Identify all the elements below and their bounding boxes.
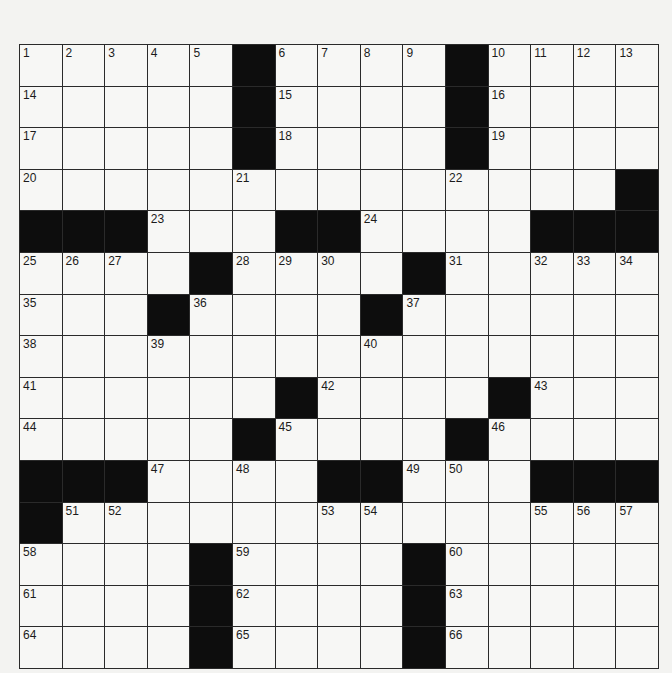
crossword-cell[interactable] [276, 544, 318, 585]
crossword-cell[interactable] [531, 419, 573, 460]
crossword-cell[interactable] [276, 295, 318, 336]
crossword-cell[interactable] [318, 627, 360, 668]
crossword-cell[interactable]: 44 [20, 419, 62, 460]
crossword-cell[interactable] [63, 336, 105, 377]
crossword-cell[interactable] [489, 461, 531, 502]
crossword-cell[interactable] [190, 128, 232, 169]
crossword-cell[interactable] [148, 586, 190, 627]
crossword-cell[interactable] [574, 87, 616, 128]
crossword-cell[interactable]: 45 [276, 419, 318, 460]
crossword-cell[interactable] [403, 87, 445, 128]
crossword-cell[interactable] [105, 627, 147, 668]
crossword-cell[interactable] [63, 295, 105, 336]
crossword-cell[interactable] [616, 295, 658, 336]
crossword-cell[interactable] [574, 627, 616, 668]
crossword-cell[interactable] [148, 170, 190, 211]
crossword-cell[interactable] [276, 170, 318, 211]
crossword-cell[interactable] [531, 544, 573, 585]
crossword-cell[interactable] [616, 586, 658, 627]
crossword-cell[interactable]: 5 [190, 45, 232, 86]
crossword-cell[interactable]: 28 [233, 253, 275, 294]
crossword-cell[interactable]: 20 [20, 170, 62, 211]
crossword-cell[interactable]: 13 [616, 45, 658, 86]
crossword-cell[interactable] [190, 336, 232, 377]
crossword-cell[interactable]: 27 [105, 253, 147, 294]
crossword-cell[interactable] [489, 503, 531, 544]
crossword-cell[interactable] [148, 128, 190, 169]
crossword-cell[interactable]: 30 [318, 253, 360, 294]
crossword-cell[interactable]: 17 [20, 128, 62, 169]
crossword-cell[interactable] [616, 627, 658, 668]
crossword-cell[interactable]: 42 [318, 378, 360, 419]
crossword-cell[interactable] [531, 128, 573, 169]
crossword-cell[interactable]: 63 [446, 586, 488, 627]
crossword-cell[interactable] [105, 586, 147, 627]
crossword-cell[interactable] [318, 336, 360, 377]
crossword-cell[interactable] [403, 378, 445, 419]
crossword-cell[interactable] [318, 586, 360, 627]
crossword-cell[interactable] [105, 544, 147, 585]
crossword-cell[interactable] [105, 170, 147, 211]
crossword-cell[interactable] [63, 128, 105, 169]
crossword-cell[interactable]: 31 [446, 253, 488, 294]
crossword-cell[interactable] [489, 336, 531, 377]
crossword-cell[interactable]: 55 [531, 503, 573, 544]
crossword-cell[interactable] [574, 419, 616, 460]
crossword-cell[interactable] [63, 170, 105, 211]
crossword-cell[interactable]: 33 [574, 253, 616, 294]
crossword-cell[interactable] [63, 87, 105, 128]
crossword-cell[interactable] [190, 211, 232, 252]
crossword-cell[interactable]: 50 [446, 461, 488, 502]
crossword-cell[interactable] [63, 627, 105, 668]
crossword-cell[interactable]: 66 [446, 627, 488, 668]
crossword-cell[interactable]: 6 [276, 45, 318, 86]
crossword-cell[interactable] [531, 170, 573, 211]
crossword-cell[interactable]: 32 [531, 253, 573, 294]
crossword-cell[interactable] [489, 627, 531, 668]
crossword-cell[interactable] [276, 627, 318, 668]
crossword-cell[interactable] [531, 627, 573, 668]
crossword-cell[interactable] [361, 87, 403, 128]
crossword-cell[interactable]: 22 [446, 170, 488, 211]
crossword-cell[interactable]: 58 [20, 544, 62, 585]
crossword-cell[interactable] [574, 336, 616, 377]
crossword-cell[interactable] [616, 378, 658, 419]
crossword-cell[interactable]: 59 [233, 544, 275, 585]
crossword-cell[interactable] [361, 378, 403, 419]
crossword-cell[interactable]: 60 [446, 544, 488, 585]
crossword-cell[interactable] [574, 170, 616, 211]
crossword-cell[interactable] [574, 378, 616, 419]
crossword-cell[interactable] [403, 170, 445, 211]
crossword-cell[interactable]: 54 [361, 503, 403, 544]
crossword-cell[interactable] [105, 336, 147, 377]
crossword-cell[interactable]: 62 [233, 586, 275, 627]
crossword-cell[interactable] [403, 336, 445, 377]
crossword-cell[interactable]: 37 [403, 295, 445, 336]
crossword-cell[interactable] [489, 544, 531, 585]
crossword-cell[interactable]: 47 [148, 461, 190, 502]
crossword-cell[interactable] [318, 128, 360, 169]
crossword-cell[interactable]: 29 [276, 253, 318, 294]
crossword-cell[interactable] [361, 253, 403, 294]
crossword-cell[interactable] [63, 419, 105, 460]
crossword-cell[interactable]: 23 [148, 211, 190, 252]
crossword-cell[interactable] [233, 211, 275, 252]
crossword-cell[interactable]: 51 [63, 503, 105, 544]
crossword-cell[interactable]: 14 [20, 87, 62, 128]
crossword-cell[interactable]: 65 [233, 627, 275, 668]
crossword-cell[interactable]: 2 [63, 45, 105, 86]
crossword-cell[interactable]: 9 [403, 45, 445, 86]
crossword-cell[interactable] [318, 419, 360, 460]
crossword-cell[interactable]: 46 [489, 419, 531, 460]
crossword-cell[interactable] [446, 503, 488, 544]
crossword-cell[interactable]: 39 [148, 336, 190, 377]
crossword-cell[interactable]: 38 [20, 336, 62, 377]
crossword-cell[interactable] [446, 211, 488, 252]
crossword-cell[interactable] [489, 170, 531, 211]
crossword-cell[interactable] [63, 586, 105, 627]
crossword-cell[interactable] [190, 419, 232, 460]
crossword-cell[interactable]: 4 [148, 45, 190, 86]
crossword-cell[interactable] [190, 378, 232, 419]
crossword-cell[interactable] [318, 295, 360, 336]
crossword-cell[interactable]: 40 [361, 336, 403, 377]
